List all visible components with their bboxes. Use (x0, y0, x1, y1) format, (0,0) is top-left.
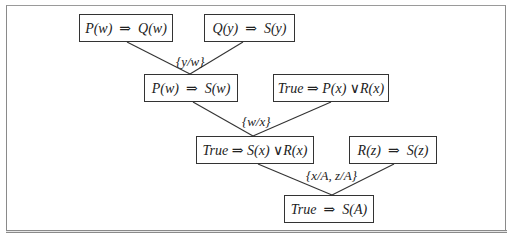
substitution-label-y-w: {y/w} (176, 54, 204, 70)
clause-node-p-implies-s: P(w) ⇒ S(w) (144, 74, 238, 102)
clause-node-true-implies-s-or-r: True ⇒ S(x) ∨R(x) (196, 136, 314, 164)
clause-node-r-implies-s: R(z) ⇒ S(z) (349, 136, 437, 164)
substitution-label-x-a-z-a: {x/A, z/A} (306, 168, 357, 184)
clause-node-true-implies-p-or-r: True ⇒ P(x) ∨R(x) (273, 74, 389, 102)
clause-node-true-implies-s-a: True ⇒ S(A) (284, 195, 374, 223)
substitution-label-w-x: {w/x} (242, 114, 270, 130)
clause-node-p-implies-q: P(w) ⇒ Q(w) (79, 14, 173, 42)
clause-node-q-implies-s: Q(y) ⇒ S(y) (204, 14, 295, 42)
